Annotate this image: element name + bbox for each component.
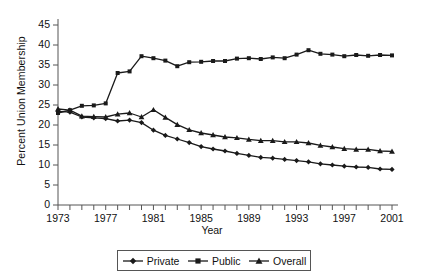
y-tick-label: 5 xyxy=(28,178,50,190)
series-overall xyxy=(55,106,395,154)
y-tick-label: 0 xyxy=(28,198,50,210)
x-tick-label: 1985 xyxy=(181,212,221,224)
x-axis-ticks xyxy=(58,205,392,210)
y-tick-label: 40 xyxy=(28,38,50,50)
chart-legend: PrivatePublicOverall xyxy=(117,250,311,271)
y-tick-label: 45 xyxy=(28,18,50,30)
legend-item-public[interactable]: Public xyxy=(187,255,241,267)
legend-item-label: Public xyxy=(212,255,241,267)
legend-item-overall[interactable]: Overall xyxy=(248,255,306,267)
y-axis-label-container: Percent Union Membership xyxy=(0,0,22,215)
series-public xyxy=(56,48,394,115)
y-tick-label: 35 xyxy=(28,58,50,70)
y-tick-label: 10 xyxy=(28,158,50,170)
axis-spines xyxy=(58,19,398,205)
y-tick-label: 30 xyxy=(28,78,50,90)
legend-item-label: Private xyxy=(147,255,180,267)
square-marker-icon xyxy=(187,255,209,267)
chart-figure: Percent Union Membership Year PrivatePub… xyxy=(0,0,424,279)
x-tick-label: 1981 xyxy=(133,212,173,224)
x-tick-label: 1989 xyxy=(229,212,269,224)
diamond-marker-icon xyxy=(122,255,144,267)
x-tick-label: 1977 xyxy=(86,212,126,224)
legend-item-private[interactable]: Private xyxy=(122,255,180,267)
x-tick-label: 1993 xyxy=(277,212,317,224)
x-axis-label: Year xyxy=(0,224,424,236)
triangle-marker-icon xyxy=(248,255,270,267)
x-tick-label: 1997 xyxy=(324,212,364,224)
y-tick-label: 25 xyxy=(28,98,50,110)
legend-item-label: Overall xyxy=(273,255,306,267)
x-tick-label: 2001 xyxy=(372,212,412,224)
x-tick-label: 1973 xyxy=(38,212,78,224)
plot-area xyxy=(0,0,424,240)
y-tick-label: 15 xyxy=(28,138,50,150)
y-axis-label: Percent Union Membership xyxy=(15,16,27,186)
y-tick-label: 20 xyxy=(28,118,50,130)
